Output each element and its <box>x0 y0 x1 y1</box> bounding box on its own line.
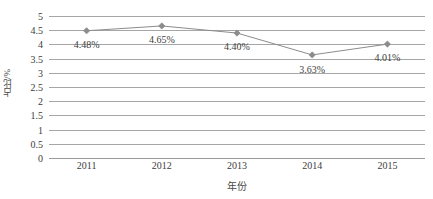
y-axis-tick-label: 0 <box>14 153 47 164</box>
data-point-label: 4.01% <box>374 52 400 63</box>
y-axis-tick-label: 1.5 <box>14 110 47 121</box>
y-axis-tick-label: 3.5 <box>14 53 47 64</box>
data-point-label: 3.63% <box>299 64 325 75</box>
plot-area: 4.48%4.65%4.40%3.63%4.01% <box>49 16 425 158</box>
y-axis-tick-label: 2 <box>14 96 47 107</box>
data-point-marker <box>309 52 315 58</box>
y-axis-tick-label: 2.5 <box>14 82 47 93</box>
data-point-label: 4.40% <box>224 41 250 52</box>
data-point-marker <box>84 28 90 34</box>
x-axis-tick-labels: 20112012201320142015 <box>49 160 425 176</box>
x-axis-tick-label: 2012 <box>152 160 172 171</box>
y-axis-tick-labels: 00.511.522.533.544.55 <box>14 0 47 199</box>
x-axis-tick-label: 2015 <box>377 160 397 171</box>
data-point-label: 4.65% <box>149 34 175 45</box>
y-axis-tick-label: 4 <box>14 39 47 50</box>
data-point-marker <box>384 41 390 47</box>
x-axis-tick-label: 2011 <box>77 160 97 171</box>
gridline <box>49 158 425 159</box>
y-axis-title: 占比/% <box>0 58 14 108</box>
y-axis-tick-label: 3 <box>14 67 47 78</box>
data-point-marker <box>234 30 240 36</box>
x-axis-tick-label: 2014 <box>302 160 322 171</box>
y-axis-tick-label: 1 <box>14 124 47 135</box>
x-axis-tick-label: 2013 <box>227 160 247 171</box>
data-point-marker <box>159 23 165 29</box>
data-point-label: 4.48% <box>74 39 100 50</box>
x-axis-title: 年份 <box>49 178 425 193</box>
series-line <box>49 16 425 158</box>
line-chart: 占比/% 00.511.522.533.544.55 4.48%4.65%4.4… <box>0 0 433 199</box>
y-axis-tick-label: 5 <box>14 11 47 22</box>
y-axis-tick-label: 4.5 <box>14 25 47 36</box>
y-axis-tick-label: 0.5 <box>14 138 47 149</box>
